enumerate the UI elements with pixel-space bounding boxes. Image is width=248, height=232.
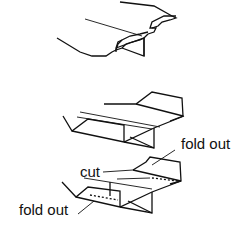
step-2-drawing <box>63 92 184 148</box>
folding-diagram <box>0 0 248 232</box>
step-3-drawing <box>62 150 181 214</box>
step-1-drawing <box>57 2 176 56</box>
cut-label: cut <box>80 164 100 179</box>
fold-out-label-bottom: fold out <box>19 202 68 217</box>
fold-out-label-top: fold out <box>181 136 230 151</box>
